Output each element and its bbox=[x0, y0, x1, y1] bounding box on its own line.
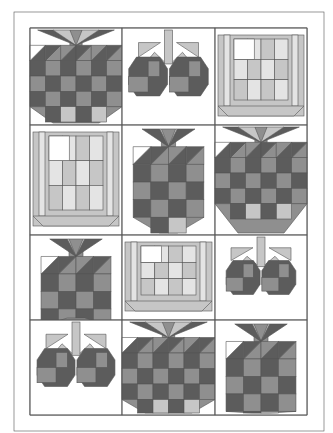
quilt-block-strawberry-small bbox=[215, 320, 307, 415]
quilt-diagram bbox=[0, 0, 333, 433]
quilt-block-strawberry-large bbox=[122, 320, 215, 415]
quilt-block-strawberry-large bbox=[30, 28, 122, 125]
quilt-block-cherries bbox=[215, 235, 307, 320]
quilt-block-strawberry-large bbox=[215, 125, 307, 235]
quilt-block-cherries bbox=[122, 28, 215, 125]
quilt-block-basket bbox=[30, 125, 122, 235]
quilt-block-strawberry-small bbox=[30, 235, 122, 326]
quilt-block-cherries bbox=[30, 320, 122, 415]
quilt-block-strawberry-small bbox=[122, 125, 215, 235]
quilt-block-basket bbox=[215, 28, 307, 125]
quilt-block-basket bbox=[122, 235, 215, 320]
